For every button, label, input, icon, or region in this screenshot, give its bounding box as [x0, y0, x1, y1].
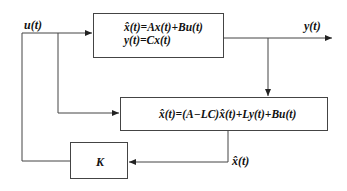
feedback-line	[22, 33, 70, 161]
gain-label: K	[96, 156, 104, 168]
observer-block: x̂(t)=(A−LC)x̂(t)+Ly(t)+Bu(t)	[120, 97, 328, 131]
estimate-line-to-gain	[129, 131, 228, 162]
plant-block: x̂(t)=Ax(t)+Bu(t) y(t)=Cx(t)	[93, 13, 224, 58]
plant-output-equation: y(t)=Cx(t)	[124, 34, 203, 47]
plant-state-equation: x̂(t)=Ax(t)+Bu(t)	[124, 21, 203, 34]
observer-equation: x̂(t)=(A−LC)x̂(t)+Ly(t)+Bu(t)	[159, 108, 296, 121]
output-signal-label: y(t)	[304, 20, 321, 32]
estimate-signal-label: x̂(t)	[232, 155, 249, 167]
gain-block: K	[70, 142, 128, 179]
input-signal-label: u(t)	[24, 19, 42, 31]
